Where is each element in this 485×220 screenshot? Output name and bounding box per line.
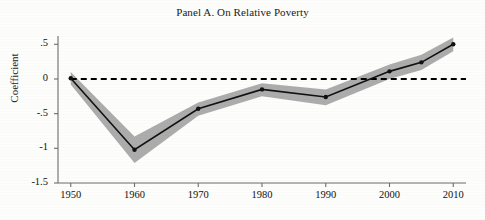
x-axis-tick-label: 2000: [368, 189, 412, 200]
y-axis-tick-label: 0: [14, 72, 48, 83]
x-axis-tick-label: 1970: [176, 189, 220, 200]
x-axis-tick-label: 1960: [113, 189, 157, 200]
data-point-marker: [260, 87, 264, 91]
data-point-marker: [387, 69, 391, 73]
data-point-marker: [69, 76, 73, 80]
y-axis-ticks: [54, 44, 58, 183]
chart-figure: Panel A. On Relative Poverty Coefficient…: [0, 0, 485, 220]
x-axis-tick-label: 1980: [240, 189, 284, 200]
confidence-band: [71, 37, 454, 163]
y-axis-tick-label: -1.5: [14, 176, 48, 187]
plot-area: [0, 0, 485, 220]
x-axis-tick-label: 1990: [304, 189, 348, 200]
x-axis-ticks: [71, 183, 454, 187]
y-axis-tick-label: -1: [14, 141, 48, 152]
data-point-marker: [451, 42, 455, 46]
data-point-marker: [196, 107, 200, 111]
data-point-marker: [324, 95, 328, 99]
y-axis-tick-label: -.5: [14, 107, 48, 118]
x-axis-tick-label: 2010: [431, 189, 475, 200]
data-point-marker: [419, 60, 423, 64]
x-axis-tick-label: 1950: [49, 189, 93, 200]
axes: [54, 36, 466, 187]
data-point-marker: [132, 148, 136, 152]
y-axis-tick-label: .5: [14, 37, 48, 48]
chart-title: Panel A. On Relative Poverty: [0, 6, 485, 18]
